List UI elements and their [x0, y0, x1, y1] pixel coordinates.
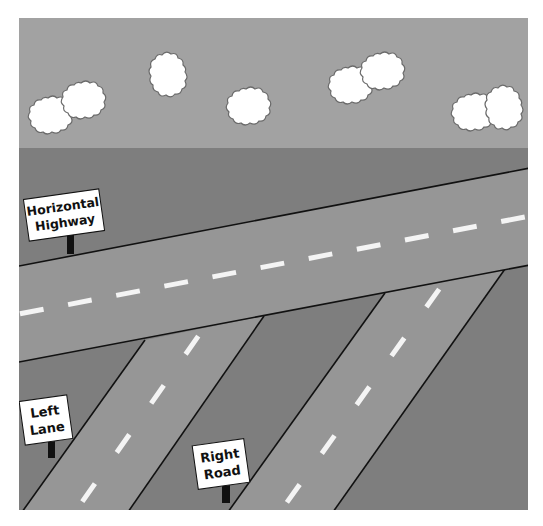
sign-board	[19, 395, 73, 445]
cloud-icon	[61, 81, 106, 119]
cloud-icon	[360, 52, 405, 90]
cloud-icon	[149, 52, 187, 97]
road-scene: Horizontal Highway Left Lane Right Road	[0, 0, 543, 526]
cloud-icon	[485, 85, 523, 130]
cloud-icon	[226, 87, 271, 125]
